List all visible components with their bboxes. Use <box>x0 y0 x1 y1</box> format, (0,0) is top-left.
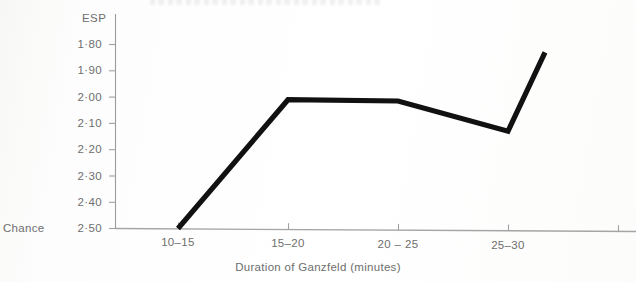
y-tick-label-2-00: 2·00 <box>56 92 102 104</box>
y-tick-label-1-80: 1·80 <box>56 39 102 51</box>
y-tick-label-2-20: 2·20 <box>56 144 102 156</box>
x-tick-label-10-15: 10–15 <box>133 237 223 249</box>
y-tick-label-2-50: 2·50 <box>56 223 102 235</box>
x-axis-title: Duration of Ganzfeld (minutes) <box>0 262 636 274</box>
y-tick-label-1-90: 1·90 <box>56 65 102 77</box>
x-tick-label-15-20: 15–20 <box>243 238 333 250</box>
x-tick-label-20-25: 20 – 25 <box>353 239 443 251</box>
chance-baseline-label: Chance <box>3 223 44 235</box>
chart-container: ESP 1·80 1·90 2·00 2·10 2·20 2·30 2·40 2… <box>0 0 636 282</box>
esp-score-line <box>178 52 545 228</box>
y-axis-title: ESP <box>82 13 106 25</box>
y-tick-label-2-40: 2·40 <box>56 197 102 209</box>
x-tick-label-over-30: Over 30 <box>473 240 636 252</box>
y-tick-label-2-10: 2·10 <box>56 118 102 130</box>
y-tick-label-2-30: 2·30 <box>56 171 102 183</box>
x-axis-line <box>116 229 636 232</box>
